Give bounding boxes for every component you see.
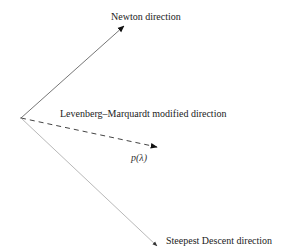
- newton-direction-label: Newton direction: [111, 11, 181, 22]
- lm-modified-direction-arrow: [21, 118, 157, 147]
- direction-diagram: Newton direction Levenberg–Marquardt mod…: [0, 0, 285, 250]
- origin-point: [20, 117, 22, 119]
- lm-modified-direction-label: Levenberg–Marquardt modified direction: [60, 108, 226, 119]
- newton-direction-arrow: [21, 26, 124, 118]
- steepest-descent-arrow: [21, 118, 157, 246]
- p-lambda-label: p(λ): [130, 152, 148, 164]
- steepest-descent-label: Steepest Descent direction: [166, 235, 272, 246]
